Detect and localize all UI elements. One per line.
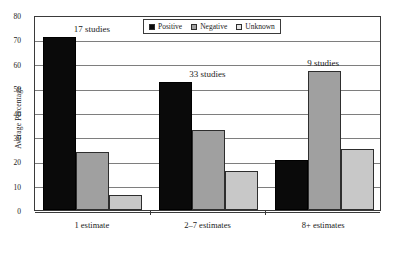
legend-label: Negative bbox=[200, 22, 227, 31]
y-axis-tick-label: 20 bbox=[0, 159, 21, 167]
group-annotation: 33 studies bbox=[189, 69, 225, 79]
x-axis-tick-mark bbox=[150, 211, 151, 215]
group-annotation: 17 studies bbox=[74, 24, 110, 34]
y-axis-tick-label: 70 bbox=[0, 37, 21, 45]
x-axis-tick-label: 1 estimate bbox=[74, 220, 109, 230]
bar-chart: Average Percentage 80706050403020100 17 … bbox=[0, 0, 403, 253]
bar-group bbox=[159, 17, 258, 210]
bar-unknown bbox=[341, 149, 374, 210]
bar-negative bbox=[76, 152, 109, 211]
legend-swatch-negative-icon bbox=[191, 24, 197, 30]
bar-unknown bbox=[225, 171, 258, 210]
bar-group bbox=[43, 17, 142, 210]
legend-item-negative: Negative bbox=[191, 22, 227, 31]
y-axis-tick-label: 40 bbox=[0, 110, 21, 118]
legend-label: Unknown bbox=[245, 22, 275, 31]
y-axis-tick-label: 10 bbox=[0, 183, 21, 191]
legend: PositiveNegativeUnknown bbox=[143, 19, 281, 34]
y-axis-tick-label: 50 bbox=[0, 86, 21, 94]
x-axis-tick-label: 2–7 estimates bbox=[184, 220, 231, 230]
bar-positive bbox=[275, 160, 308, 210]
legend-label: Positive bbox=[158, 22, 182, 31]
bar-unknown bbox=[109, 195, 142, 210]
bars-layer bbox=[35, 17, 380, 210]
legend-item-unknown: Unknown bbox=[236, 22, 275, 31]
legend-item-positive: Positive bbox=[149, 22, 182, 31]
bar-negative bbox=[308, 71, 341, 210]
y-axis-tick-label: 0 bbox=[0, 208, 21, 216]
y-axis-tick-label: 80 bbox=[0, 13, 21, 21]
bar-positive bbox=[159, 82, 192, 210]
x-axis-tick-label: 8+ estimates bbox=[302, 220, 345, 230]
y-axis-tick-label: 30 bbox=[0, 134, 21, 142]
gridline bbox=[35, 212, 380, 213]
bar-positive bbox=[43, 37, 76, 210]
plot-area bbox=[34, 16, 381, 211]
legend-swatch-unknown-icon bbox=[236, 24, 242, 30]
bar-group bbox=[275, 17, 374, 210]
y-axis-tick-label: 60 bbox=[0, 61, 21, 69]
group-annotation: 9 studies bbox=[307, 58, 339, 68]
legend-swatch-positive-icon bbox=[149, 24, 155, 30]
bar-negative bbox=[192, 130, 225, 210]
x-axis-tick-mark bbox=[265, 211, 266, 215]
